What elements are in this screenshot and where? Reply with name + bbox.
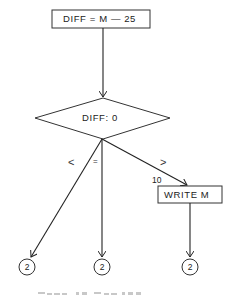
edge-label-less-than: < — [68, 156, 74, 168]
write-step-number: 10 — [152, 175, 161, 185]
flowchart-canvas — [0, 0, 237, 295]
assign-label: DIFF = M — 25 — [63, 13, 136, 24]
clipped-caption — [38, 289, 158, 295]
edge-label-greater-than: > — [160, 156, 166, 168]
connector-label-2: 2 — [94, 262, 110, 272]
caption-glyph-tops — [38, 289, 158, 295]
connector-label-1: 2 — [19, 262, 35, 272]
edge-label-equal: = — [93, 157, 98, 166]
connector-label-3: 2 — [182, 262, 198, 272]
decision-label: DIFF: 0 — [82, 112, 118, 123]
arrow-greater-than — [102, 139, 187, 185]
write-label: WRITE M — [164, 189, 209, 200]
arrow-less-than — [31, 139, 102, 257]
